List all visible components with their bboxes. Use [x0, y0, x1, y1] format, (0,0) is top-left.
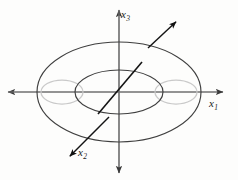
normal-vector-arrow: [148, 22, 176, 48]
axis-label-x2: x2: [78, 147, 87, 158]
x2-axis-arrow: [70, 117, 109, 156]
coordinate-axes: [8, 10, 223, 173]
axis-label-x1-subscript: 1: [214, 103, 218, 112]
axis-label-x2-subscript: 2: [83, 152, 87, 161]
torus-diagram: x1 x3 x2: [0, 0, 238, 180]
axis-label-x3: x3: [121, 9, 130, 20]
axis-label-x3-subscript: 3: [126, 14, 130, 23]
torus-diagram-canvas: [0, 0, 238, 180]
axis-label-x1: x1: [209, 98, 218, 109]
